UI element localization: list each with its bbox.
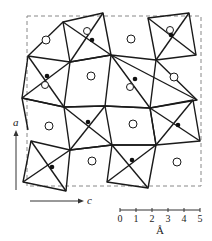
scale-tick-label: 1 bbox=[134, 213, 139, 224]
filled-dot-atom bbox=[86, 120, 91, 125]
scale-tick-label: 5 bbox=[198, 213, 203, 224]
tetrahedron-lower-right bbox=[150, 100, 200, 145]
open-circle-atom bbox=[129, 120, 137, 128]
tetrahedron-center bbox=[111, 55, 197, 108]
scale-bar-ticks: 0 1 2 3 4 5 bbox=[118, 213, 203, 224]
open-circle-atom bbox=[127, 84, 134, 91]
crystal-structure-figure: a c 0 1 2 3 4 5 Å bbox=[0, 0, 212, 241]
open-circle-atom bbox=[127, 35, 135, 43]
scale-tick-label: 2 bbox=[150, 213, 155, 224]
axis-a: a bbox=[13, 116, 19, 190]
open-circle-atom bbox=[170, 73, 178, 81]
scale-tick-label: 0 bbox=[118, 213, 123, 224]
tetrahedron-bottom-left bbox=[23, 141, 70, 191]
open-circle-atom bbox=[173, 158, 181, 166]
arrowhead-right-icon bbox=[78, 199, 84, 204]
filled-dot-atom bbox=[50, 165, 55, 170]
filled-dot-atom bbox=[176, 123, 181, 128]
scale-tick-label: 3 bbox=[166, 213, 171, 224]
axis-c-label: c bbox=[87, 194, 92, 206]
scale-bar bbox=[120, 208, 200, 212]
open-circle-atom bbox=[88, 157, 96, 165]
filled-dot-atom bbox=[130, 158, 135, 163]
tetrahedron-bottom-center bbox=[107, 145, 156, 188]
filled-dot-atom bbox=[169, 33, 174, 38]
filled-dot-atom bbox=[133, 77, 138, 82]
open-circle-atom bbox=[87, 72, 95, 80]
scale-unit-label: Å bbox=[156, 224, 164, 236]
tetrahedron-top-center bbox=[63, 13, 111, 62]
filled-dot-atom bbox=[90, 38, 95, 43]
open-circle-atom bbox=[45, 122, 53, 130]
open-circle-atom bbox=[42, 36, 50, 44]
tetrahedron-lower-left bbox=[64, 106, 112, 150]
axis-c: c bbox=[30, 194, 92, 206]
open-circle-atom bbox=[84, 28, 91, 35]
filled-dot-atom bbox=[45, 74, 50, 79]
arrowhead-up-icon bbox=[14, 130, 19, 136]
open-circle-atom bbox=[167, 27, 174, 34]
axis-a-label: a bbox=[13, 116, 19, 128]
open-circle-atom bbox=[42, 82, 49, 89]
scale-tick-label: 4 bbox=[182, 213, 187, 224]
